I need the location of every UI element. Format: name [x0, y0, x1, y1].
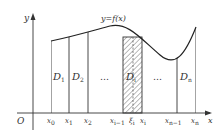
tick-xi-greek: ξi	[129, 117, 135, 126]
tick-x0: x0	[47, 117, 55, 126]
tick-xi-1: xi−1	[110, 117, 125, 126]
y-axis-label: y	[23, 13, 30, 23]
tick-x1: x1	[65, 117, 73, 126]
origin-label: O	[17, 116, 25, 126]
tick-x2: x2	[84, 117, 92, 126]
x-axis-arrow-icon	[205, 111, 212, 116]
tick-xn: xn	[191, 117, 199, 126]
region-label-d1: D1	[52, 71, 65, 83]
y-axis-arrow-icon	[31, 13, 36, 20]
tick-xn-1: xn−1	[165, 117, 182, 126]
ellipsis-left: …	[100, 72, 109, 82]
region-label-dn: Dn	[179, 71, 192, 83]
region-label-d2: D2	[71, 71, 84, 83]
riemann-diagram: y x O y=f(x) D1 D2 … Di … Dn x0 x1 x2 xi…	[0, 0, 220, 140]
tick-xi: xi	[140, 117, 146, 126]
ellipsis-right: …	[153, 72, 162, 82]
x-axis-label: x	[208, 116, 213, 125]
curve-label: y=f(x)	[100, 14, 126, 23]
